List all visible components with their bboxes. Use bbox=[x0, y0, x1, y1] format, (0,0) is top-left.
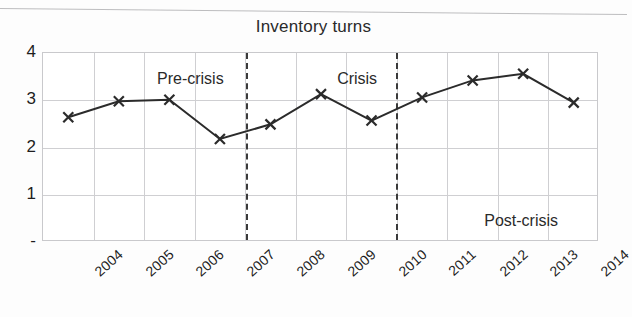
x-tick-label-2004: 2004 bbox=[92, 246, 127, 280]
scan-edge-artifact bbox=[0, 8, 627, 15]
x-tick-label-2010: 2010 bbox=[395, 246, 430, 280]
data-point-2009 bbox=[316, 89, 326, 99]
data-point-2014 bbox=[569, 98, 579, 108]
y-tick-label-1: 1 bbox=[6, 185, 36, 202]
data-series-line bbox=[43, 53, 599, 242]
data-point-2004 bbox=[63, 112, 73, 122]
series-polyline bbox=[68, 74, 573, 139]
data-point-2010 bbox=[367, 116, 377, 126]
chart-title: Inventory turns bbox=[0, 17, 627, 37]
data-point-2011 bbox=[417, 92, 427, 102]
x-tick-label-2006: 2006 bbox=[193, 246, 228, 280]
y-tick-label-4: 4 bbox=[6, 43, 36, 60]
x-tick-label-2007: 2007 bbox=[243, 246, 278, 280]
x-tick-label-2008: 2008 bbox=[294, 246, 329, 280]
x-tick-label-2014: 2014 bbox=[597, 246, 632, 280]
x-tick-label-2005: 2005 bbox=[142, 246, 177, 280]
y-tick-label-3: 3 bbox=[6, 90, 36, 107]
y-tick-label--: - bbox=[6, 232, 36, 249]
plot-area: Pre-crisisCrisisPost-crisis bbox=[42, 52, 598, 241]
x-tick-label-2009: 2009 bbox=[344, 246, 379, 280]
x-tick-label-2012: 2012 bbox=[496, 246, 531, 280]
y-tick-label-2: 2 bbox=[6, 138, 36, 155]
x-tick-label-2011: 2011 bbox=[445, 246, 479, 279]
x-tick-label-2013: 2013 bbox=[546, 246, 581, 280]
